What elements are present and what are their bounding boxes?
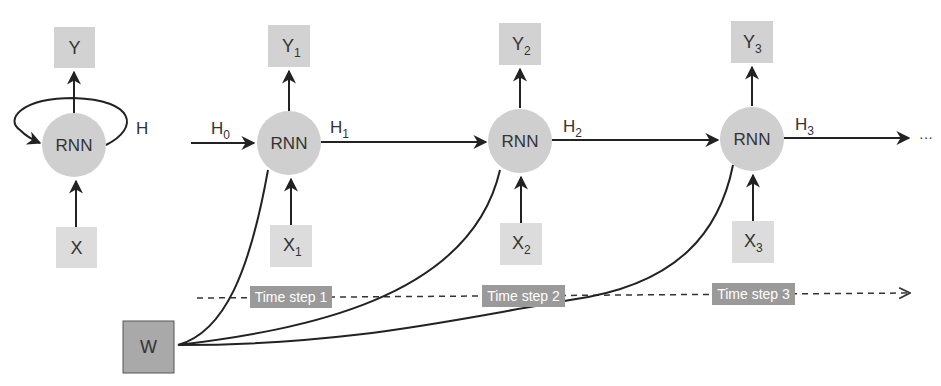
- h3-label: H3: [795, 115, 814, 138]
- time-step-1: Y1 RNN X1 H1: [257, 25, 486, 267]
- h0-label: H0: [211, 119, 230, 142]
- time-step-3: Y3 RNN X3 H3 ···: [720, 21, 933, 263]
- svg-text:W: W: [140, 337, 157, 357]
- svg-text:Time step 2: Time step 2: [487, 288, 560, 304]
- weight-box-w: W: [123, 321, 174, 373]
- rnn-unrolled-diagram: Y H RNN X H0 Y1 RNN X1 H1 Y2 RNN X2: [0, 0, 941, 386]
- h1-label: H1: [330, 118, 349, 141]
- folded-rnn: Y H RNN X: [15, 27, 149, 268]
- rnn-cell-label: RNN: [56, 136, 93, 155]
- rnn-cell-2-label: RNN: [502, 132, 539, 151]
- weight-curve-2: [178, 170, 500, 345]
- time-step-label-3: Time step 3: [712, 283, 795, 305]
- time-step-2: Y2 RNN X2 H2: [488, 23, 718, 265]
- svg-text:Time step 3: Time step 3: [717, 286, 790, 302]
- input-label-x: X: [70, 238, 82, 258]
- continuation-ellipsis: ···: [919, 129, 933, 145]
- output-label-y: Y: [68, 38, 80, 58]
- time-step-label-2: Time step 2: [482, 285, 565, 307]
- weight-curve-1: [178, 170, 268, 345]
- weight-curve-3: [178, 165, 733, 345]
- shared-weight-connections: [178, 165, 733, 345]
- svg-text:Time step 1: Time step 1: [255, 289, 328, 305]
- h2-label: H2: [563, 117, 582, 140]
- hidden-label-h: H: [136, 119, 148, 138]
- rnn-cell-1-label: RNN: [271, 134, 308, 153]
- time-step-label-1: Time step 1: [250, 286, 332, 308]
- rnn-cell-3-label: RNN: [734, 130, 771, 149]
